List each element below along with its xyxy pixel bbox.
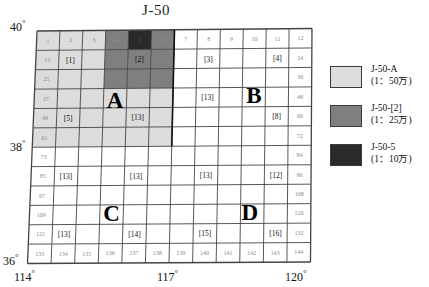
grid-cell-number-96: 96 bbox=[296, 172, 302, 178]
grid-cell-code: [13] bbox=[201, 93, 214, 102]
grid-cell-45 bbox=[219, 87, 242, 107]
grid-cell-28 bbox=[104, 69, 128, 89]
grid-cell-26 bbox=[58, 69, 82, 89]
grid-cell-39 bbox=[80, 89, 104, 109]
grid-cell-30 bbox=[150, 69, 174, 89]
grid-cell-123 bbox=[75, 224, 99, 244]
grid-cell-number-143: 143 bbox=[271, 250, 280, 256]
degree-symbol: ° bbox=[22, 138, 26, 148]
legend-item: J-50-A(1：50万) bbox=[330, 64, 429, 88]
grid-cell-75 bbox=[78, 147, 102, 167]
grid-cell-56 bbox=[195, 107, 219, 127]
grid-cell-31 bbox=[173, 68, 196, 88]
grid-cell-32 bbox=[196, 68, 219, 88]
grid-cell-80 bbox=[195, 146, 219, 166]
grid-cell-119 bbox=[264, 204, 288, 224]
dark-swatch bbox=[330, 144, 362, 166]
grid-cell-64 bbox=[102, 127, 126, 147]
grid-cell-35 bbox=[265, 68, 288, 88]
grid-cell-41 bbox=[126, 88, 150, 108]
grid-cell-number-120: 120 bbox=[295, 210, 304, 216]
grid-cell-90 bbox=[147, 166, 171, 186]
grid-cell-27 bbox=[81, 69, 105, 89]
grid-cell-number-60: 60 bbox=[297, 113, 303, 119]
grid-cell-number-132: 132 bbox=[294, 230, 303, 236]
grid-cell-63 bbox=[79, 127, 103, 147]
grid-cell-number-135: 135 bbox=[82, 251, 91, 257]
grid-cell-102 bbox=[147, 185, 171, 205]
grid-cell-number-133: 133 bbox=[35, 251, 44, 257]
grid-cell-number-144: 144 bbox=[294, 249, 303, 255]
legend-item-scale: (1：50万) bbox=[371, 76, 412, 88]
degree-symbol: ° bbox=[303, 268, 307, 278]
region-label-a: A bbox=[107, 89, 124, 112]
grid-cell-114 bbox=[146, 205, 170, 225]
grid-cell-number-73: 73 bbox=[41, 154, 47, 160]
grid-cell-number-84: 84 bbox=[297, 152, 303, 158]
grid-cell-code: [3] bbox=[204, 54, 213, 63]
grid-cell-43 bbox=[173, 88, 197, 108]
grid-cell-29 bbox=[127, 69, 151, 89]
grid-cell-66 bbox=[149, 127, 173, 147]
legend-item-name: J-50-5 bbox=[371, 142, 412, 154]
grid-cell-99 bbox=[77, 186, 101, 206]
grid-cell-code: [14] bbox=[128, 229, 141, 238]
grid-cell-number-10: 10 bbox=[252, 36, 258, 42]
grid-cell-code: [5] bbox=[64, 113, 73, 122]
grid-cell-15 bbox=[81, 50, 105, 70]
grid-cell-number-109: 109 bbox=[37, 212, 46, 218]
grid-cell-93 bbox=[218, 165, 242, 185]
grid-cell-115 bbox=[170, 204, 194, 224]
degree-symbol: ° bbox=[175, 268, 179, 278]
grid-cell-117 bbox=[217, 204, 241, 224]
grid-cell-number-9: 9 bbox=[230, 36, 233, 42]
grid-cell-101 bbox=[124, 185, 148, 205]
grid-cell-111 bbox=[76, 205, 100, 225]
degree-symbol: ° bbox=[22, 18, 26, 28]
grid-cell-number-61: 61 bbox=[41, 135, 47, 141]
axis-label-lat-mid: 38° bbox=[10, 138, 26, 155]
grid-cell-57 bbox=[219, 107, 242, 127]
grid-cell-number-1: 1 bbox=[47, 38, 50, 44]
grid-cell-129 bbox=[217, 224, 241, 244]
grid-cell-number-108: 108 bbox=[295, 191, 304, 197]
grid-cell-code: [12] bbox=[270, 170, 283, 179]
axis-label-lon-right: 120° bbox=[285, 268, 307, 285]
grid-cell-94 bbox=[241, 165, 265, 185]
grid-cell-98 bbox=[53, 186, 77, 206]
axis-label-lon-mid: 117° bbox=[157, 268, 178, 285]
grid-cell-54 bbox=[149, 107, 173, 127]
grid-cell-code: [15] bbox=[199, 229, 212, 238]
region-label-c: C bbox=[103, 201, 120, 224]
grid-cell-21 bbox=[220, 49, 243, 69]
grid-cell-81 bbox=[218, 146, 242, 166]
grid-cell-code: [13] bbox=[60, 172, 73, 181]
grid-cell-number-12: 12 bbox=[298, 35, 304, 41]
grid-cell-77 bbox=[125, 146, 149, 166]
grid-cell-83 bbox=[265, 145, 288, 165]
grid-cell-110 bbox=[53, 205, 77, 225]
grid-cell-74 bbox=[55, 147, 79, 167]
grid-cell-38 bbox=[57, 89, 81, 109]
grid-cell-number-48: 48 bbox=[297, 94, 303, 100]
grid-cell-number-2: 2 bbox=[70, 37, 73, 43]
grid-cell-number-138: 138 bbox=[153, 250, 162, 256]
grid-cell-87 bbox=[77, 166, 101, 186]
grid-cell-code: [4] bbox=[273, 54, 282, 63]
grid-cell-103 bbox=[170, 185, 194, 205]
grid-cell-70 bbox=[242, 126, 265, 146]
grid-cell-16 bbox=[105, 50, 129, 70]
grid-cell-69 bbox=[218, 126, 242, 146]
legend-item: J-50-5(1：10万) bbox=[330, 142, 429, 166]
region-label-d: D bbox=[242, 200, 259, 223]
light-swatch bbox=[330, 66, 362, 88]
grid-cell-number-142: 142 bbox=[247, 250, 256, 256]
grid-cell-58 bbox=[242, 107, 265, 127]
figure-title: J-50 bbox=[0, 2, 312, 19]
grid-cell-code: [13] bbox=[58, 230, 71, 239]
axis-label-lon-left: 114° bbox=[14, 268, 35, 285]
grid-cell-number-72: 72 bbox=[297, 133, 303, 139]
grid-cell-number-36: 36 bbox=[297, 74, 303, 80]
axis-label-lat-top: 40° bbox=[10, 18, 26, 35]
grid-cell-76 bbox=[101, 147, 125, 167]
